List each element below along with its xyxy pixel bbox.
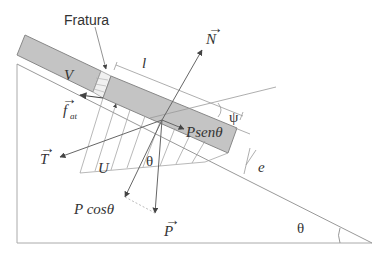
svg-text:→: → bbox=[165, 212, 180, 228]
uplift-label: U bbox=[98, 160, 110, 176]
tangential-component-label: Psenθ bbox=[185, 124, 223, 140]
tension-label: T → bbox=[40, 140, 55, 167]
psi-label: ψ bbox=[229, 109, 239, 125]
weight-label: P → bbox=[163, 212, 180, 239]
normal-component-label: P cosθ bbox=[73, 201, 115, 217]
fracture-pointer bbox=[95, 27, 106, 69]
theta-slope-label: θ bbox=[297, 220, 304, 236]
fracture-label: Fratura bbox=[64, 12, 109, 28]
normal-vector-mark: → bbox=[208, 20, 223, 36]
thickness-dimension bbox=[235, 128, 256, 174]
svg-text:at: at bbox=[70, 111, 78, 121]
svg-text:→: → bbox=[40, 140, 55, 156]
friction-label: f at → bbox=[62, 91, 78, 121]
component-connector bbox=[125, 197, 155, 213]
svg-text:→: → bbox=[62, 91, 77, 107]
upper-block bbox=[17, 35, 101, 92]
theta-center-label: θ bbox=[146, 153, 153, 169]
length-label: l bbox=[142, 55, 146, 71]
inclined-plane-diagram: Fratura V l N → ψ f at → Psenθ T → U θ e… bbox=[0, 0, 384, 260]
thickness-label: e bbox=[258, 159, 265, 175]
